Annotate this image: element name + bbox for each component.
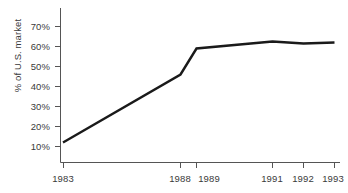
- y-tick-label-70: 70%: [10, 21, 50, 32]
- line-chart: % of U.S. market 70% 60% 50% 40% 30% 20%…: [0, 0, 348, 193]
- x-tick-label-1983: 1983: [52, 173, 74, 184]
- x-tick-label-1992: 1992: [292, 173, 314, 184]
- y-tick-label-40: 40%: [10, 81, 50, 92]
- x-tick-label-1993: 1993: [322, 173, 344, 184]
- x-tick-marks: [64, 163, 335, 169]
- chart-plot-area: [0, 0, 348, 193]
- x-tick-label-1988: 1988: [169, 173, 191, 184]
- data-series-line: [63, 42, 335, 143]
- y-tick-label-30: 30%: [10, 101, 50, 112]
- y-tick-label-60: 60%: [10, 41, 50, 52]
- x-tick-label-1989: 1989: [198, 173, 220, 184]
- y-tick-marks: [55, 27, 61, 147]
- x-tick-label-1991: 1991: [261, 173, 283, 184]
- y-tick-label-10: 10%: [10, 141, 50, 152]
- y-tick-label-50: 50%: [10, 61, 50, 72]
- y-tick-label-20: 20%: [10, 121, 50, 132]
